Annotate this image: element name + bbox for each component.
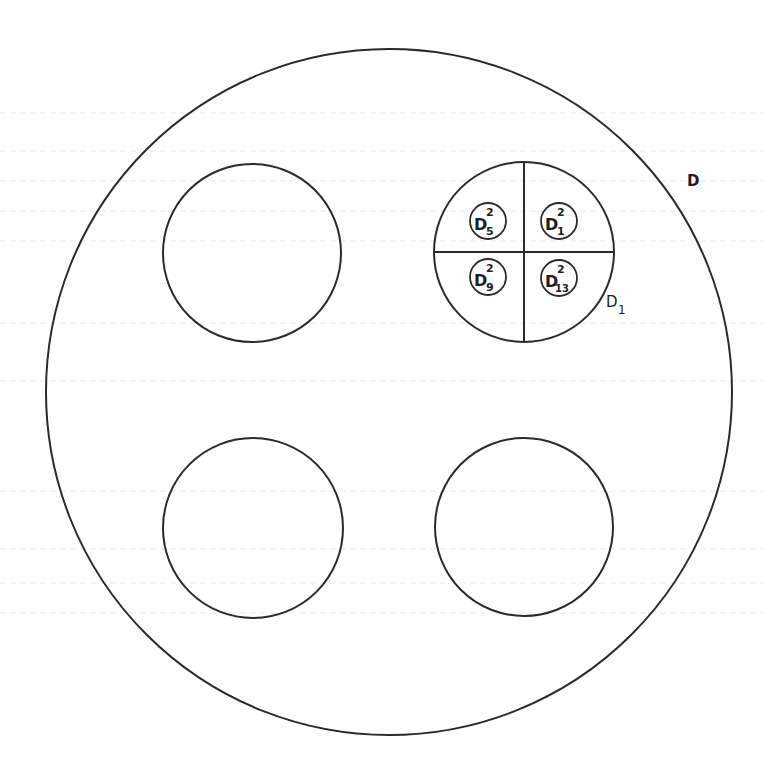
label-superscript: 2 [557,206,565,219]
quadrant-disk-D2-5: D 2 5 [470,203,506,239]
label-superscript: 2 [486,206,494,219]
label-superscript: 2 [486,262,494,275]
outer-disk-D [46,49,732,735]
outer-disk-label: D [687,172,699,190]
sub-disk-top-left [163,164,341,342]
sub-disk-bottom-right [435,438,613,616]
d1-label-main: D [606,293,618,311]
disk-diagram: D 2 5 D 2 1 D 2 9 D 2 13 D D 1 [0,0,763,766]
label-subscript: 5 [486,225,494,238]
label-superscript: 2 [557,263,565,276]
quadrant-disk-D2-1: D 2 1 [541,203,577,239]
d1-label-sub: 1 [618,303,626,317]
label-subscript: 1 [557,225,565,238]
label-subscript: 13 [555,283,569,294]
label-subscript: 9 [486,281,494,294]
sub-disk-bottom-left [163,438,343,618]
sub-disk-D1: D 2 5 D 2 1 D 2 9 D 2 13 [434,162,614,342]
quadrant-disk-D2-9: D 2 9 [470,259,506,295]
quadrant-disk-D2-13: D 2 13 [541,260,577,296]
